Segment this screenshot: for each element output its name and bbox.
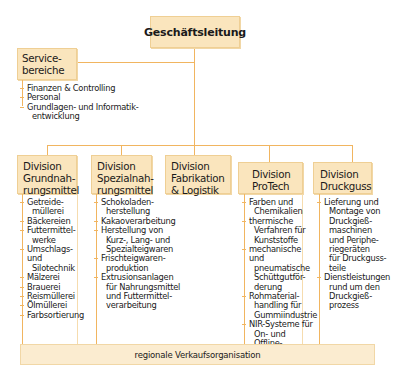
list-item: Farbsortierung: [22, 311, 82, 320]
division-label: Division: [171, 160, 230, 172]
management-box: Geschäftsleitung: [150, 16, 240, 48]
division-druckguss-box: Division Druckguss: [313, 162, 372, 194]
service-label-line2: bereiche: [22, 64, 76, 76]
division-label: Division: [97, 160, 151, 172]
list-item: Lieferung undMontage vonDruckgieß-maschi…: [319, 198, 389, 273]
division-label: Grundnah-: [23, 172, 76, 184]
management-label: Geschäftsleitung: [144, 26, 246, 39]
list-item: Getreide-müllerei: [22, 198, 82, 217]
list-item: Schokoladen-herstellung: [96, 198, 186, 217]
service-list: Finanzen & Controlling Personal Grundlag…: [22, 84, 138, 122]
division-5-list: Lieferung undMontage vonDruckgieß-maschi…: [319, 198, 389, 311]
division-spezialnahrungsmittel-box: Division Spezialnah- rungsmittel: [91, 155, 152, 194]
list-item: Dienstleistungenrund um denDruckgieß-pro…: [319, 273, 389, 311]
drop-line-1: [47, 145, 48, 155]
drop-line-5: [352, 145, 353, 162]
list-item: Herstellung vonKurz-, Lang- undSpezialte…: [96, 226, 186, 254]
service-item: Grundlagen- und Informatik-entwicklung: [22, 103, 138, 122]
division-4-list: Farben undChemikalien thermischeVerfahre…: [244, 198, 314, 358]
list-item: Frischteigwaren-produktion: [96, 254, 186, 273]
list-item: mechanische undpneumatischeSchüttgutför-…: [244, 245, 314, 292]
division-label: Fabrikation: [171, 172, 230, 184]
drop-line-4: [269, 145, 270, 162]
division-label: Division: [23, 160, 76, 172]
division-label: rungsmittel: [23, 184, 76, 196]
trunk-line: [194, 47, 195, 145]
list-item: Farben undChemikalien: [244, 198, 314, 217]
list-item: Extrusionsanlagenfür Nahrungsmittelund F…: [96, 273, 186, 311]
division-grundnahrungsmittel-box: Division Grundnah- rungsmittel: [17, 155, 77, 194]
list-item: thermischeVerfahren fürKunststoffe: [244, 217, 314, 245]
division-2-list: Schokoladen-herstellung Kakaoverarbeitun…: [96, 198, 186, 311]
division-label: rungsmittel: [97, 184, 151, 196]
list-item: Rohmaterial-handling fürGummiindustrie: [244, 292, 314, 320]
drop-line-3: [194, 145, 195, 155]
division-label: & Logistik: [171, 184, 230, 196]
division-fabrikation-logistik-box: Division Fabrikation & Logistik: [165, 155, 231, 194]
list-item: Umschlags- undSilotechnik: [22, 245, 82, 273]
division-label: ProTech: [252, 180, 302, 192]
division-label: Division: [252, 168, 302, 180]
regional-sales-label: regionale Verkaufsorganisation: [135, 350, 261, 360]
service-box: Service- bereiche: [17, 48, 77, 80]
division-protech-box: Division ProTech: [238, 162, 303, 194]
regional-sales-bar: regionale Verkaufsorganisation: [20, 344, 375, 365]
service-connector: [77, 62, 194, 63]
division-label: Division: [320, 168, 371, 180]
division-label: Druckguss: [320, 180, 371, 192]
list-item: Futtermittel-werke: [22, 226, 82, 245]
division-1-list: Getreide-müllerei Bäckereien Futtermitte…: [22, 198, 82, 320]
service-label-line1: Service-: [22, 52, 76, 64]
drop-line-2: [121, 145, 122, 155]
division-bus-line: [47, 145, 353, 146]
division-label: Spezialnah-: [97, 172, 151, 184]
